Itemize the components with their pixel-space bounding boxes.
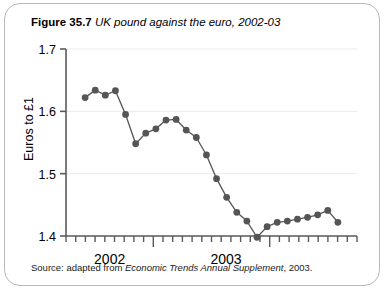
source-note: Source: adapted from Economic Trends Ann… [31,262,312,273]
data-point-marker [203,152,210,159]
line-chart-svg: 1.41.51.61.720022003 [5,4,381,287]
data-point-marker [193,134,200,141]
data-point-marker [264,223,271,230]
y-tick-label: 1.6 [39,105,56,119]
data-point-marker [112,87,119,94]
data-point-marker [274,219,281,226]
data-point-marker [132,140,139,147]
figure-panel: Figure 35.7 UK pound against the euro, 2… [4,3,380,286]
data-point-marker [233,209,240,216]
chart-plot-area: Euros to £1 1.41.51.61.720022003 [5,4,381,287]
data-point-marker [284,218,291,225]
y-tick-label: 1.5 [39,168,56,182]
y-tick-label: 1.4 [39,230,56,244]
data-point-marker [213,175,220,182]
data-point-marker [142,130,149,137]
data-point-marker [304,214,311,221]
data-point-marker [223,194,230,201]
data-point-marker [82,94,89,101]
data-point-marker [173,116,180,123]
data-point-marker [102,92,109,99]
data-point-marker [334,219,341,226]
source-suffix: , 2003. [283,262,312,273]
source-prefix: Source: adapted from [31,262,125,273]
data-point-marker [163,117,170,124]
data-point-marker [183,127,190,134]
data-point-marker [294,216,301,223]
data-point-marker [243,218,250,225]
data-point-marker [254,234,261,241]
y-tick-label: 1.7 [39,43,56,57]
data-point-marker [152,125,159,132]
source-publication: Economic Trends Annual Supplement [125,262,283,273]
data-point-marker [122,111,129,118]
data-point-marker [314,211,321,218]
data-point-marker [92,87,99,94]
data-point-marker [324,207,331,214]
